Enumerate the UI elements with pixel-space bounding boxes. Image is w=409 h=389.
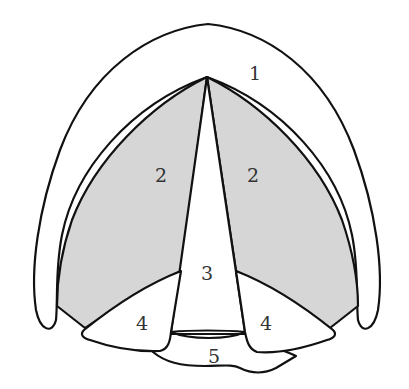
label-region-1: 1 <box>249 62 261 84</box>
label-region-5: 5 <box>208 345 220 367</box>
label-region-4-left: 4 <box>136 312 148 334</box>
label-region-3: 3 <box>201 262 213 284</box>
label-region-2-right: 2 <box>247 164 259 186</box>
diagram: 1 2 2 3 4 4 5 <box>0 0 409 389</box>
label-region-2-left: 2 <box>155 164 167 186</box>
label-region-4-right: 4 <box>260 312 272 334</box>
